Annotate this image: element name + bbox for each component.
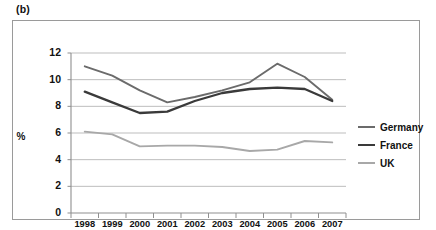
legend-label-uk: UK — [380, 158, 394, 169]
chart-legend: Germany France UK — [358, 118, 436, 172]
x-tick-label: 2004 — [236, 219, 264, 230]
x-tick-label: 2007 — [319, 219, 347, 230]
panel-label: (b) — [16, 3, 30, 15]
legend-swatch-uk — [358, 162, 375, 164]
x-tick-label: 2005 — [264, 219, 292, 230]
y-tick-label: 8 — [39, 100, 61, 111]
y-tick-label: 6 — [39, 127, 61, 138]
line-chart-svg — [71, 53, 346, 213]
y-tick-label: 10 — [39, 74, 61, 85]
x-tick-marks-group — [71, 213, 346, 218]
x-tick-label: 2002 — [181, 219, 209, 230]
x-tick-label: 2001 — [154, 219, 182, 230]
legend-item-france: France — [358, 136, 436, 154]
legend-item-uk: UK — [358, 154, 436, 172]
x-tick-label: 1998 — [71, 219, 99, 230]
x-tick-label: 1999 — [99, 219, 127, 230]
series-lines-group — [85, 64, 333, 151]
x-tick-label: 2000 — [126, 219, 154, 230]
legend-label-germany: Germany — [380, 122, 423, 133]
legend-swatch-france — [358, 144, 375, 146]
axes-group — [68, 53, 72, 213]
y-tick-label: 12 — [39, 47, 61, 58]
legend-label-france: France — [380, 140, 413, 151]
chart-frame: % 024681012 1998199920002001200220032004… — [12, 20, 420, 220]
series-line-uk — [85, 132, 333, 151]
series-line-france — [85, 88, 333, 113]
y-tick-label: 4 — [39, 154, 61, 165]
plot-area: 024681012 199819992000200120022003200420… — [71, 53, 346, 213]
figure-panel-b: (b) % 024681012 199819992000200120022003… — [0, 0, 436, 230]
y-tick-label: 2 — [39, 180, 61, 191]
x-tick-label: 2003 — [209, 219, 237, 230]
y-tick-label: 0 — [39, 207, 61, 218]
y-axis-label: % — [14, 131, 28, 142]
legend-swatch-germany — [358, 126, 375, 128]
legend-item-germany: Germany — [358, 118, 436, 136]
x-tick-label: 2006 — [291, 219, 319, 230]
